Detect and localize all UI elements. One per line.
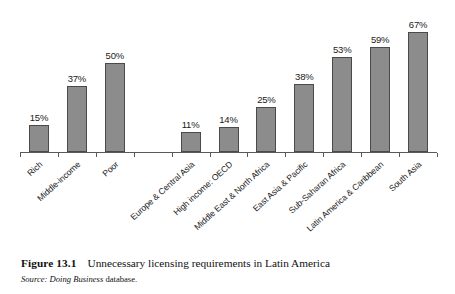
x-axis-tick: [58, 153, 59, 157]
bar: [29, 125, 49, 152]
x-axis-tick: [247, 153, 248, 157]
x-axis-tick: [134, 153, 135, 157]
x-axis-line: [20, 152, 437, 153]
x-axis-tick: [20, 153, 21, 157]
bar: [256, 107, 276, 152]
figure-source-line: Source: Doing Business database.: [21, 273, 441, 285]
x-axis-tick: [437, 153, 438, 157]
bar-value-label: 59%: [358, 34, 402, 45]
source-rest: database.: [105, 274, 137, 284]
bar: [294, 84, 314, 152]
bar-value-label: 25%: [244, 94, 288, 105]
caption-title-line: Figure 13.1Unnecessary licensing require…: [21, 256, 441, 271]
source-publication: Doing Business: [50, 274, 104, 284]
bar-value-label: 37%: [55, 73, 99, 84]
bar: [181, 132, 201, 152]
bar-value-label: 53%: [320, 44, 364, 55]
bar: [332, 57, 352, 152]
figure-title: Unnecessary licensing requirements in La…: [88, 257, 331, 269]
figure-caption: Figure 13.1Unnecessary licensing require…: [21, 256, 441, 285]
bar: [105, 63, 125, 152]
bar: [370, 47, 390, 152]
bar-value-label: 14%: [207, 114, 251, 125]
x-axis-tick: [210, 153, 211, 157]
x-axis-tick: [285, 153, 286, 157]
bar: [219, 127, 239, 152]
bar: [408, 32, 428, 152]
x-axis-tick: [399, 153, 400, 157]
x-axis-tick: [323, 153, 324, 157]
bar-chart-plot: 15%37%50%11%14%25%38%53%59%67% RichMiddl…: [0, 0, 455, 250]
x-axis-tick: [361, 153, 362, 157]
figure-container: 15%37%50%11%14%25%38%53%59%67% RichMiddl…: [0, 0, 455, 294]
figure-number: Figure 13.1: [21, 257, 77, 269]
x-axis-tick: [96, 153, 97, 157]
bar: [67, 86, 87, 152]
bar-value-label: 15%: [17, 112, 61, 123]
x-axis-tick: [172, 153, 173, 157]
bar-value-label: 67%: [396, 19, 440, 30]
source-label: Source:: [21, 274, 47, 284]
bar-value-label: 50%: [93, 50, 137, 61]
bar-value-label: 38%: [282, 71, 326, 82]
